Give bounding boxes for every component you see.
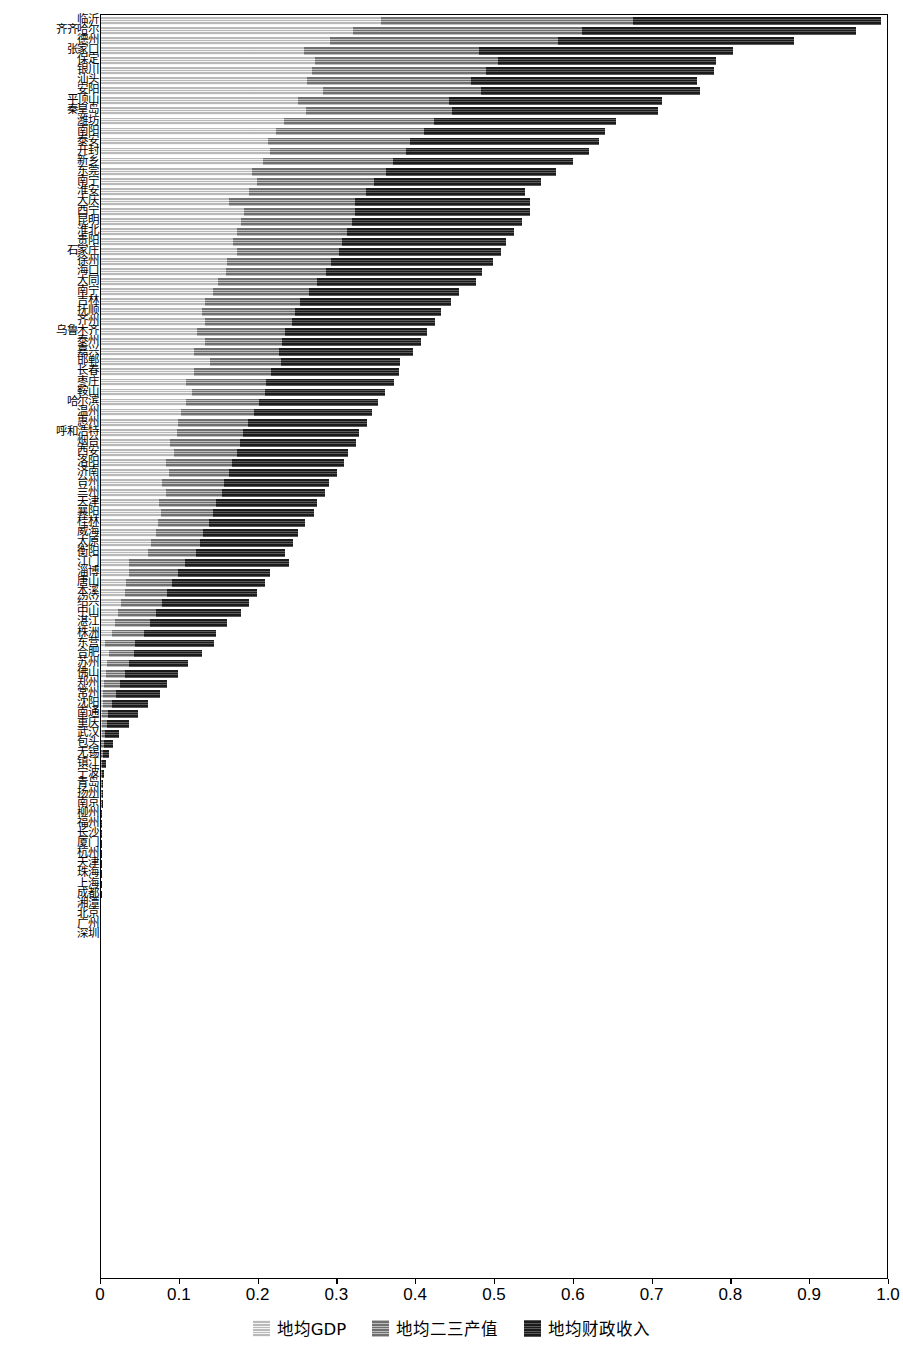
bar-segment-fiscal <box>282 338 421 346</box>
bar-segment-fiscal <box>167 589 257 597</box>
bar-segment-gdp <box>101 168 252 176</box>
x-axis-tick-mark <box>888 1279 889 1284</box>
bar-segment-fiscal <box>248 419 368 427</box>
bar-row <box>101 750 109 758</box>
bar-row <box>101 128 605 136</box>
bar-segment-gdp <box>101 318 205 326</box>
x-axis-tick-label: 0.1 <box>167 1285 191 1305</box>
bar-row <box>101 37 794 45</box>
bar-segment-industry <box>115 619 150 627</box>
bar-segment-fiscal <box>224 479 330 487</box>
legend-item: 地均财政收入 <box>524 1316 650 1340</box>
legend-label: 地均GDP <box>277 1316 346 1340</box>
x-axis-tick-mark <box>809 1279 810 1284</box>
bar-segment-gdp <box>101 409 181 417</box>
bar-segment-industry <box>129 569 178 577</box>
bar-row <box>101 389 385 397</box>
bar-segment-industry <box>156 529 203 537</box>
bar-segment-fiscal <box>144 630 217 638</box>
chart-legend: 地均GDP地均二三产值地均财政收入 <box>0 1316 903 1340</box>
bar-segment-fiscal <box>481 87 700 95</box>
bar-row <box>101 660 188 668</box>
x-axis-tick-mark <box>179 1279 180 1284</box>
bar-segment-industry <box>205 338 282 346</box>
x-axis-tick-label: 0.7 <box>640 1285 664 1305</box>
bar-segment-gdp <box>101 128 276 136</box>
bar-segment-fiscal <box>331 258 493 266</box>
bar-row <box>101 268 482 276</box>
legend-item: 地均GDP <box>253 1316 346 1340</box>
bar-segment-industry <box>276 128 424 136</box>
bar-segment-fiscal <box>216 499 317 507</box>
bar-row <box>101 238 506 246</box>
bar-segment-gdp <box>101 599 121 607</box>
bar-row <box>101 368 399 376</box>
bar-segment-industry <box>192 389 265 397</box>
bar-row <box>101 790 103 798</box>
bar-segment-gdp <box>101 138 268 146</box>
bar-row <box>101 509 314 517</box>
bar-segment-gdp <box>101 107 306 115</box>
x-axis-tick-label: 0.5 <box>482 1285 506 1305</box>
bar-segment-industry <box>112 630 144 638</box>
bar-segment-gdp <box>101 459 166 467</box>
x-axis-tick-mark <box>100 1279 101 1284</box>
x-axis-tick-mark <box>652 1279 653 1284</box>
bar-row <box>101 559 289 567</box>
bar-segment-industry <box>315 57 498 65</box>
bar-segment-fiscal <box>232 459 344 467</box>
bar-row <box>101 47 733 55</box>
bar-row <box>101 599 249 607</box>
bar-row <box>101 218 522 226</box>
bar-segment-fiscal <box>105 730 119 738</box>
bar-segment-industry <box>244 208 354 216</box>
bar-segment-fiscal <box>355 208 530 216</box>
bar-segment-gdp <box>101 609 118 617</box>
bar-segment-gdp <box>101 208 244 216</box>
bar-segment-gdp <box>101 238 233 246</box>
bar-segment-industry <box>194 348 279 356</box>
bar-segment-fiscal <box>172 579 265 587</box>
bar-segment-industry <box>237 228 347 236</box>
bar-row <box>101 17 881 25</box>
bar-segment-gdp <box>101 419 178 427</box>
x-axis-tick-label: 0.6 <box>561 1285 585 1305</box>
bar-segment-gdp <box>101 188 249 196</box>
bar-row <box>101 479 329 487</box>
bar-segment-fiscal <box>102 770 104 778</box>
bar-segment-fiscal <box>633 17 881 25</box>
bar-row <box>101 338 421 346</box>
bar-segment-gdp <box>101 509 161 517</box>
bar-segment-gdp <box>101 198 229 206</box>
bars-layer <box>101 15 887 1278</box>
bar-row <box>101 439 356 447</box>
bar-row <box>101 810 102 818</box>
bar-row <box>101 690 160 698</box>
bar-segment-industry <box>151 539 200 547</box>
bar-segment-gdp <box>101 228 237 236</box>
bar-segment-fiscal <box>203 529 298 537</box>
bar-segment-industry <box>284 118 434 126</box>
bar-segment-industry <box>103 700 112 708</box>
bar-segment-fiscal <box>279 348 413 356</box>
bar-segment-fiscal <box>265 389 385 397</box>
bar-segment-industry <box>213 288 309 296</box>
bar-segment-fiscal <box>108 710 138 718</box>
bar-row <box>101 168 556 176</box>
bar-row <box>101 820 102 828</box>
bar-segment-industry <box>252 168 386 176</box>
bar-segment-gdp <box>101 17 381 25</box>
bar-row <box>101 409 372 417</box>
bar-segment-fiscal <box>452 107 658 115</box>
bar-segment-gdp <box>101 650 109 658</box>
bar-row <box>101 87 700 95</box>
bar-segment-fiscal <box>406 148 589 156</box>
bar-row <box>101 830 102 838</box>
bar-row <box>101 710 138 718</box>
bar-segment-fiscal <box>393 158 573 166</box>
bar-row <box>101 419 367 427</box>
bar-segment-gdp <box>101 449 174 457</box>
bar-segment-fiscal <box>103 750 109 758</box>
bar-segment-industry <box>298 97 449 105</box>
bar-row <box>101 740 113 748</box>
